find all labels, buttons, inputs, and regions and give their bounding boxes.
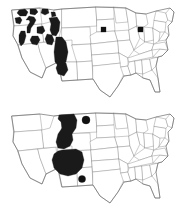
marker-northeast bbox=[138, 27, 143, 32]
map-panel-top bbox=[0, 0, 176, 106]
map-panel-bottom bbox=[0, 106, 176, 212]
patch-northern-idaho bbox=[51, 12, 56, 17]
us-map-top-svg bbox=[0, 0, 176, 106]
marker-southern-new-mexico bbox=[78, 175, 85, 182]
distribution-map-figure bbox=[0, 0, 176, 212]
patch-northeast-washington bbox=[41, 9, 49, 15]
state-boundaries-top bbox=[12, 7, 174, 97]
state-boundaries-bottom bbox=[12, 113, 174, 203]
marker-upper-midwest bbox=[101, 27, 106, 32]
us-map-bottom-svg bbox=[0, 106, 176, 212]
marker-north-dakota bbox=[82, 116, 90, 124]
